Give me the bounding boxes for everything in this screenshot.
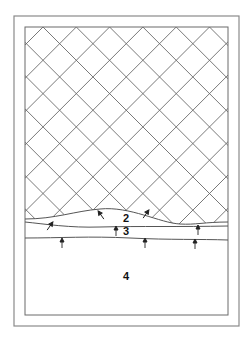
arrow-icon [96,210,105,220]
arrow-icon [114,226,118,236]
arrow-icon [143,238,147,248]
layer-label-4: 4 [123,270,129,282]
arrow-icon [60,238,64,248]
arrow-icon [45,221,54,231]
boundary-layer3-layer4 [25,237,228,240]
layer-label-2: 2 [123,212,129,224]
arrow-icon [193,239,197,249]
diagram-canvas [0,0,251,341]
lattice-pattern [0,27,251,327]
arrow-icon [141,209,150,219]
layer-label-3: 3 [123,225,129,237]
